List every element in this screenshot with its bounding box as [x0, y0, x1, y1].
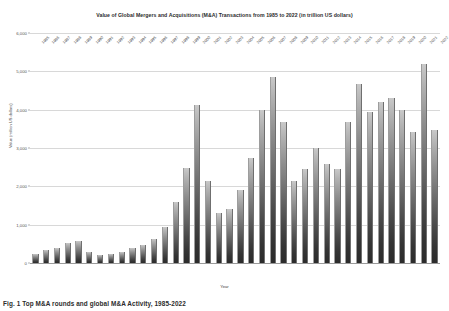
bar[interactable]: [367, 112, 373, 263]
bar-slot: [30, 33, 41, 263]
y-axis-tick-label: 2,000: [16, 184, 27, 189]
bar-slot: [267, 33, 278, 263]
bar[interactable]: [324, 164, 330, 263]
bar-slot: [321, 33, 332, 263]
bar-slot: [375, 33, 386, 263]
bar-slot: [429, 33, 440, 263]
bar[interactable]: [216, 213, 222, 263]
y-axis-tick-label: 1,000: [16, 222, 27, 227]
bar-slot: [224, 33, 235, 263]
bar[interactable]: [248, 158, 254, 263]
bar-slot: [127, 33, 138, 263]
bar-slot: [278, 33, 289, 263]
y-axis-tick-label: 4,000: [16, 107, 27, 112]
bar-slot: [52, 33, 63, 263]
bar[interactable]: [399, 110, 405, 263]
bar-slot: [116, 33, 127, 263]
x-axis-tick-label: 2022: [439, 35, 449, 45]
bar-slot: [213, 33, 224, 263]
bar[interactable]: [313, 148, 319, 263]
bar-slot: [62, 33, 73, 263]
bar[interactable]: [291, 181, 297, 263]
figure-caption: Fig. 1 Top M&A rounds and global M&A Act…: [3, 300, 186, 307]
bar[interactable]: [259, 110, 265, 263]
bar[interactable]: [43, 250, 49, 263]
bar-slot: [203, 33, 214, 263]
bar[interactable]: [345, 122, 351, 263]
bar[interactable]: [270, 77, 276, 263]
bar-slot: [181, 33, 192, 263]
x-axis-line: [30, 263, 440, 264]
bar[interactable]: [226, 209, 232, 263]
bar-slot: [311, 33, 322, 263]
bar[interactable]: [183, 168, 189, 263]
bar[interactable]: [54, 248, 60, 263]
bar-slot: [41, 33, 52, 263]
bar-slot: [332, 33, 343, 263]
bar-slot: [397, 33, 408, 263]
bar-slot: [95, 33, 106, 263]
bar-series: [30, 33, 440, 263]
bar-slot: [289, 33, 300, 263]
bar[interactable]: [119, 252, 125, 263]
bar[interactable]: [410, 132, 416, 263]
bar-slot: [386, 33, 397, 263]
bar[interactable]: [280, 122, 286, 263]
bar[interactable]: [194, 105, 200, 263]
bar-slot: [149, 33, 160, 263]
bar[interactable]: [431, 130, 437, 263]
bar[interactable]: [378, 102, 384, 263]
bar[interactable]: [173, 202, 179, 263]
bar[interactable]: [86, 252, 92, 264]
y-axis-tick-label: 6,000: [16, 31, 27, 36]
bar[interactable]: [205, 181, 211, 263]
bar[interactable]: [356, 84, 362, 263]
bar[interactable]: [140, 245, 146, 263]
bar-slot: [84, 33, 95, 263]
bar-slot: [246, 33, 257, 263]
bar-slot: [235, 33, 246, 263]
bar[interactable]: [97, 255, 103, 263]
bar-slot: [192, 33, 203, 263]
y-axis-label: Value (million US dollars): [8, 103, 13, 148]
bar-slot: [418, 33, 429, 263]
bar[interactable]: [129, 248, 135, 263]
bar[interactable]: [162, 227, 168, 263]
bar-slot: [257, 33, 268, 263]
bar[interactable]: [388, 98, 394, 263]
bar-slot: [364, 33, 375, 263]
bar-slot: [159, 33, 170, 263]
bar[interactable]: [421, 64, 427, 263]
bar[interactable]: [108, 254, 114, 263]
bar-slot: [170, 33, 181, 263]
chart-title: Value of Global Mergers and Acquisitions…: [0, 12, 449, 18]
figure-container: Value of Global Mergers and Acquisitions…: [0, 0, 449, 295]
y-axis-tick-label: 5,000: [16, 69, 27, 74]
bar[interactable]: [334, 169, 340, 263]
bar-slot: [408, 33, 419, 263]
bar[interactable]: [32, 254, 38, 263]
plot-area: 01,0002,0003,0004,0005,0006,000 19851986…: [30, 33, 440, 264]
bar[interactable]: [151, 239, 157, 263]
bar[interactable]: [237, 190, 243, 263]
bar[interactable]: [65, 243, 71, 263]
bar[interactable]: [75, 241, 81, 263]
bar-slot: [354, 33, 365, 263]
bar-slot: [138, 33, 149, 263]
bar-slot: [343, 33, 354, 263]
bar[interactable]: [302, 169, 308, 263]
bar-slot: [300, 33, 311, 263]
x-axis-label: Year: [0, 284, 449, 289]
y-axis-tick-label: 3,000: [16, 146, 27, 151]
bar-slot: [73, 33, 84, 263]
bar-slot: [106, 33, 117, 263]
y-axis-tick-label: 0: [25, 261, 27, 266]
